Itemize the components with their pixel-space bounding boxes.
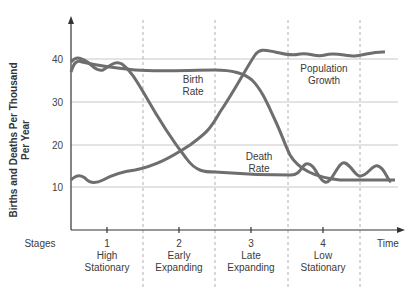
stage-4: 4 Low Stationary (288, 238, 358, 274)
birth-rate-label: Birth Rate (168, 74, 218, 98)
stage-name-line2: Stationary (288, 262, 358, 274)
population-growth-label: Population Growth (292, 63, 356, 87)
birth-rate-label-line2: Rate (168, 86, 218, 98)
stage-3: 3 Late Expanding (216, 238, 286, 274)
svg-text:30: 30 (52, 97, 64, 108)
stage-name-line1: High (72, 250, 142, 262)
birth-rate-label-line1: Birth (168, 74, 218, 86)
death-rate-label-line1: Death (236, 151, 282, 163)
stage-number: 4 (288, 238, 358, 250)
stage-1: 1 High Stationary (72, 238, 142, 274)
stage-name-line1: Early (144, 250, 214, 262)
stage-number: 2 (144, 238, 214, 250)
stage-2: 2 Early Expanding (144, 238, 214, 274)
stage-name-line1: Late (216, 250, 286, 262)
death-rate-label-line2: Rate (236, 163, 282, 175)
stage-name-line1: Low (288, 250, 358, 262)
x-axis-label: Time (368, 238, 408, 250)
stage-number: 3 (216, 238, 286, 250)
death-rate-label: Death Rate (236, 151, 282, 175)
population-growth-label-line1: Population (292, 63, 356, 75)
svg-text:40: 40 (52, 54, 64, 65)
y-tick-labels: 40 30 20 10 (52, 54, 64, 193)
stages-label: Stages (20, 238, 60, 250)
y-axis-label: Births and Deaths Per Thousand Per Year (8, 60, 32, 220)
stage-number: 1 (72, 238, 142, 250)
stage-name-line2: Expanding (216, 262, 286, 274)
stage-name-line2: Stationary (72, 262, 142, 274)
axes (68, 16, 405, 233)
svg-text:10: 10 (52, 182, 64, 193)
stage-name-line2: Expanding (144, 262, 214, 274)
svg-text:20: 20 (52, 140, 64, 151)
population-growth-label-line2: Growth (292, 75, 356, 87)
